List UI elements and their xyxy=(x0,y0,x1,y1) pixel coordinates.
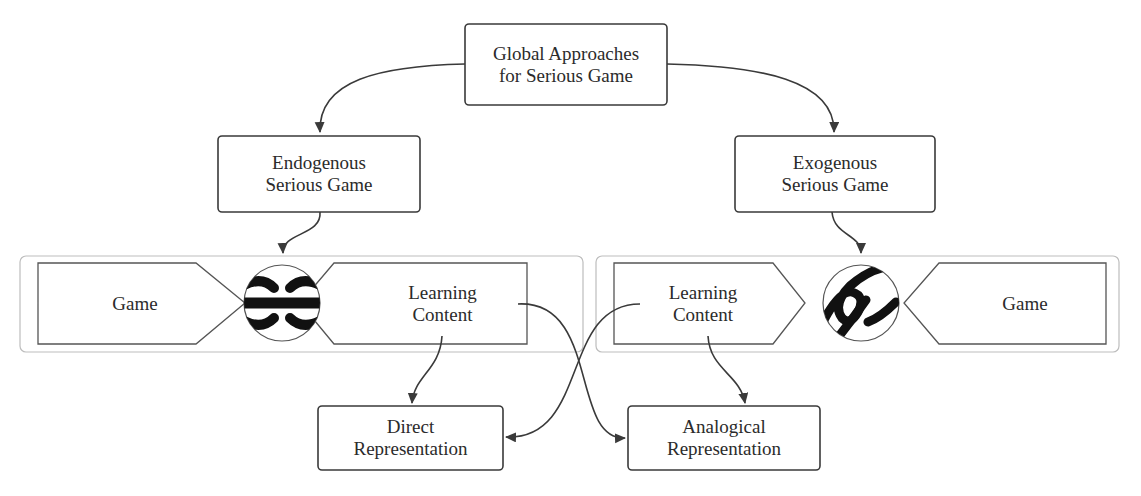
endogenous-game-label: Game xyxy=(60,263,210,344)
exogenous-game-label: Game xyxy=(950,263,1100,344)
edge-root-to-endogenous xyxy=(320,64,465,132)
edge-endogenous-to-group xyxy=(283,212,320,253)
root-node-label: Global Approaches for Serious Game xyxy=(465,24,667,105)
endogenous-node-label: Endogenous Serious Game xyxy=(218,136,420,212)
exogenous-node-label: Exogenous Serious Game xyxy=(735,136,935,212)
edge-root-to-exogenous xyxy=(667,64,834,132)
direct-representation-label: Direct Representation xyxy=(318,406,503,470)
exogenous-learning-content-label: Learning Content xyxy=(628,263,778,344)
edge-exogenous-to-group xyxy=(832,212,861,253)
loose-hooks-icon xyxy=(823,265,899,341)
analogical-representation-label: Analogical Representation xyxy=(628,406,820,470)
endogenous-learning-content-label: Learning Content xyxy=(370,263,515,344)
